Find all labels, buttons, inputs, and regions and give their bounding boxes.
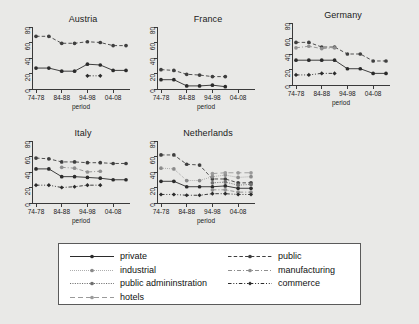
- legend-item-private[interactable]: private: [69, 251, 147, 262]
- x-tick: [36, 90, 37, 93]
- x-tick-label: 04-08: [355, 90, 391, 97]
- x-axis-title: period: [32, 103, 130, 110]
- series-private: [34, 62, 128, 73]
- series-private: [159, 78, 227, 89]
- series-canvas: [32, 27, 130, 89]
- panel-title: Netherlands: [157, 128, 259, 138]
- legend-key-icon: [227, 278, 273, 289]
- x-axis-line: [292, 85, 390, 86]
- x-tick: [321, 86, 322, 89]
- legend-key-icon: [227, 265, 273, 276]
- series-manufacturing: [60, 166, 102, 174]
- x-axis-title: period: [157, 217, 255, 224]
- series-commerce: [294, 71, 337, 77]
- x-axis-line: [32, 203, 130, 204]
- legend-key-icon: [69, 265, 115, 276]
- panel-title: Germany: [292, 10, 394, 20]
- plot-wrapper: 02040608074-7884-8894-9804-08period: [157, 27, 257, 117]
- series-commerce: [34, 183, 102, 190]
- x-tick: [238, 90, 239, 93]
- legend-label: public admininstration: [120, 278, 207, 289]
- x-tick: [87, 204, 88, 207]
- panel-france: France02040608074-7884-8894-9804-08perio…: [157, 14, 259, 116]
- legend-label: public: [278, 251, 302, 262]
- plot-area: [32, 27, 130, 89]
- legend-item-public-admininstration[interactable]: public admininstration: [69, 278, 207, 289]
- plot-area: [157, 141, 255, 203]
- x-tick-label: 04-08: [220, 94, 256, 101]
- legend-label: manufacturing: [278, 265, 335, 276]
- x-tick: [212, 90, 213, 93]
- x-axis-title: period: [292, 99, 390, 106]
- legend-column-1: privateindustrialpublic admininstrationh…: [69, 244, 219, 306]
- y-tick-label: 80: [149, 141, 157, 163]
- x-tick: [113, 90, 114, 93]
- series-canvas: [157, 27, 255, 89]
- x-axis-line: [157, 89, 255, 90]
- legend-item-industrial[interactable]: industrial: [69, 265, 156, 276]
- panel-austria: Austria02040608074-7884-8894-9804-08peri…: [32, 14, 134, 116]
- x-axis-line: [32, 89, 130, 90]
- x-tick: [186, 204, 187, 207]
- series-commerce: [85, 74, 102, 78]
- panel-netherlands: Netherlands02040608074-7884-8894-9804-08…: [157, 128, 259, 230]
- y-tick-label: 80: [149, 27, 157, 49]
- panel-germany: Germany02040608074-7884-8894-9804-08peri…: [292, 10, 394, 112]
- series-public: [159, 68, 227, 79]
- x-tick: [212, 204, 213, 207]
- legend-label: hotels: [120, 292, 144, 303]
- plot-wrapper: 02040608074-7884-8894-9804-08period: [32, 141, 132, 231]
- x-tick: [61, 90, 62, 93]
- series-private: [34, 167, 128, 182]
- panel-title: France: [157, 14, 259, 24]
- series-manufacturing: [211, 188, 253, 194]
- x-tick: [186, 90, 187, 93]
- y-tick-label: 80: [24, 141, 32, 163]
- x-tick-label: 04-08: [95, 94, 131, 101]
- x-axis-title: period: [32, 217, 130, 224]
- x-tick: [36, 204, 37, 207]
- plot-wrapper: 02040608074-7884-8894-9804-08period: [157, 141, 257, 231]
- legend-key-icon: [227, 251, 273, 262]
- plot-area: [157, 27, 255, 89]
- legend-label: commerce: [278, 278, 320, 289]
- plot-area: [292, 23, 390, 85]
- x-tick-label: 04-08: [95, 208, 131, 215]
- x-tick: [238, 204, 239, 207]
- figure-root: Austria02040608074-7884-8894-9804-08peri…: [0, 0, 419, 324]
- y-tick-label: 80: [284, 23, 292, 45]
- legend-item-manufacturing[interactable]: manufacturing: [227, 265, 335, 276]
- series-canvas: [292, 23, 390, 85]
- x-axis-title: period: [157, 103, 255, 110]
- plot-wrapper: 02040608074-7884-8894-9804-08period: [32, 27, 132, 117]
- x-tick: [161, 90, 162, 93]
- series-canvas: [32, 141, 130, 203]
- x-tick: [87, 90, 88, 93]
- x-tick-label: 04-08: [220, 208, 256, 215]
- panel-title: Italy: [32, 128, 134, 138]
- legend-key-icon: [69, 251, 115, 262]
- y-tick-label: 80: [24, 27, 32, 49]
- x-tick: [61, 204, 62, 207]
- panel-title: Austria: [32, 14, 134, 24]
- legend-label: industrial: [120, 265, 156, 276]
- legend-label: private: [120, 251, 147, 262]
- legend: privateindustrialpublic admininstrationh…: [58, 243, 361, 305]
- legend-column-2: publicmanufacturingcommerce: [227, 244, 357, 306]
- legend-key-icon: [69, 292, 115, 303]
- series-hotels: [211, 171, 253, 175]
- legend-item-hotels[interactable]: hotels: [69, 292, 144, 303]
- x-tick: [296, 86, 297, 89]
- legend-key-icon: [69, 278, 115, 289]
- x-axis-line: [157, 203, 255, 204]
- series-canvas: [157, 141, 255, 203]
- panel-italy: Italy02040608074-7884-8894-9804-08period: [32, 128, 134, 230]
- x-tick: [161, 204, 162, 207]
- series-public: [34, 156, 128, 165]
- x-tick: [113, 204, 114, 207]
- legend-item-commerce[interactable]: commerce: [227, 278, 320, 289]
- legend-item-public[interactable]: public: [227, 251, 302, 262]
- x-tick: [347, 86, 348, 89]
- plot-area: [32, 141, 130, 203]
- x-tick: [373, 86, 374, 89]
